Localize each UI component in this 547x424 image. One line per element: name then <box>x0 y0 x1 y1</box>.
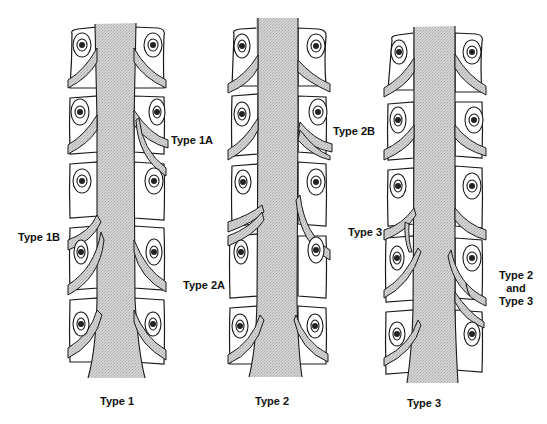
label-type2b: Type 2B <box>333 125 375 138</box>
panel-title-type2: Type 2 <box>242 395 302 408</box>
panel-title-type3: Type 3 <box>394 397 454 410</box>
label-type1b: Type 1B <box>18 231 60 244</box>
label-type2-and-type3-line2: and <box>494 282 538 295</box>
panel-type1 <box>68 23 168 378</box>
label-type2-and-type3-line3: Type 3 <box>494 295 538 308</box>
label-type3: Type 3 <box>348 226 382 239</box>
diagram-canvas <box>0 0 547 424</box>
label-type1a: Type 1A <box>171 134 213 147</box>
panel-title-type1: Type 1 <box>87 395 147 408</box>
panel-type3 <box>384 26 486 383</box>
panel-type2 <box>228 18 332 377</box>
label-type2-and-type3-line1: Type 2 <box>494 269 538 282</box>
label-type2a: Type 2A <box>183 279 225 292</box>
label-type2-and-type3: Type 2 and Type 3 <box>494 269 538 308</box>
